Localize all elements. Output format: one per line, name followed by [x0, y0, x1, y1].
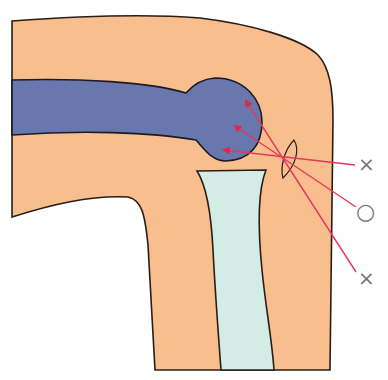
middle-correct-mark: ○ — [356, 201, 375, 223]
knee-diagram — [0, 0, 388, 380]
upper-incorrect-mark: × — [358, 154, 375, 174]
limb-skin — [12, 16, 333, 370]
lower-incorrect-mark: × — [358, 268, 375, 288]
